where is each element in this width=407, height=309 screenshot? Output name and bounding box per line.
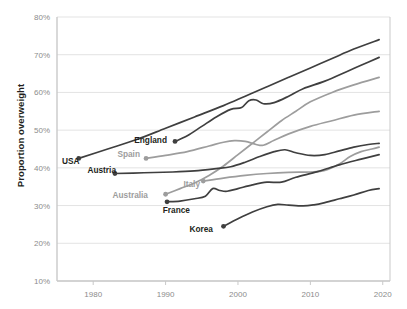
series-line-england [175,57,379,141]
series-label-korea: Korea [189,224,213,234]
series-label-italy: Italy [183,179,200,189]
x-tick-label: 2010 [301,290,319,299]
x-tick-label: 1980 [84,290,102,299]
y-tick-label: 80% [34,13,50,22]
series-start-marker-italy [201,179,206,184]
y-tick-label: 20% [34,239,50,248]
series-label-spain: Spain [117,149,140,159]
series-line-korea [224,189,380,227]
y-tick-label: 40% [34,164,50,173]
series-start-marker-korea [221,224,226,229]
series-start-marker-england [173,139,178,144]
y-tick-label: 50% [34,126,50,135]
series-start-marker-australia [163,192,168,197]
y-tick-label: 10% [34,277,50,286]
series-label-austria: Austria [87,165,116,175]
y-tick-label: 30% [34,202,50,211]
series-start-marker-france [165,199,170,204]
y-tick-label: 60% [34,88,50,97]
x-tick-label: 2020 [374,290,392,299]
series-label-australia: Australia [112,190,148,200]
series-inline-labels: USAEnglandSpainAustriaAustraliaItalyFran… [62,135,213,234]
x-tick-label: 2000 [229,290,247,299]
series-label-usa: USA [62,156,80,166]
x-axis-ticks: 19801990200020102020 [84,281,392,299]
overweight-proportion-line-chart: Proportion overweight 10%20%30%40%50%60%… [0,0,407,309]
series-line-australia [166,77,380,194]
chart-plot-area: 10%20%30%40%50%60%70%80% 198019902000201… [0,0,407,309]
series-label-england: England [134,135,167,145]
y-axis-title: Proportion overweight [15,56,26,216]
series-label-france: France [163,205,191,215]
x-tick-label: 1990 [157,290,175,299]
y-tick-label: 70% [34,51,50,60]
y-axis-ticks: 10%20%30%40%50%60%70%80% [34,13,50,286]
series-start-marker-spain [144,156,149,161]
